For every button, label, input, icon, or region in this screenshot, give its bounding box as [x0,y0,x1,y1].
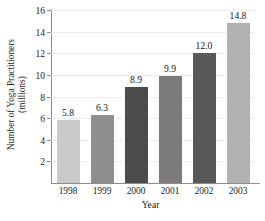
bar-value-label: 6.3 [96,102,108,113]
y-axis-tick-label: 6 [40,113,45,124]
y-axis-tick-label: 12 [35,48,45,59]
plot-area: 2468101214165.86.38.99.912.014.8 [51,10,255,183]
y-axis-tick-mark [47,32,51,33]
y-axis-tick-mark [47,53,51,54]
x-axis-tick-label: 2001 [161,186,180,196]
bar: 5.8 [57,120,80,183]
bar: 14.8 [227,23,250,183]
gridline [51,97,255,98]
gridline [51,161,255,162]
y-axis-title: Number of Yoga Practitioners (millions) [0,0,34,190]
x-axis-title-text: Year [142,199,160,210]
y-axis-tick-mark [47,75,51,76]
x-axis-tick-label: 2003 [229,186,248,196]
y-axis-tick-mark [47,161,51,162]
y-axis-tick-label: 2 [40,156,45,167]
bar-value-label: 9.9 [164,63,176,74]
bar-value-label: 12.0 [196,40,213,51]
y-axis-title-line2: (millions) [17,39,28,150]
bar: 8.9 [125,87,148,183]
x-axis-tick-label: 2002 [195,186,214,196]
bar-value-label: 8.9 [130,74,142,85]
bar: 6.3 [91,115,114,183]
gridline [51,75,255,76]
y-axis-tick-label: 4 [40,134,45,145]
gridline [51,32,255,33]
gridline [51,53,255,54]
gridline [51,118,255,119]
y-axis-title-line1: Number of Yoga Practitioners [6,39,16,150]
x-axis-line [51,183,260,184]
y-axis-tick-mark [47,118,51,119]
yoga-practitioners-bar-chart: Number of Yoga Practitioners (millions) … [0,0,265,221]
x-axis-tick-label: 1998 [59,186,78,196]
y-axis-tick-mark [47,97,51,98]
x-axis-tick-label: 1999 [93,186,112,196]
y-axis-tick-label: 14 [35,26,45,37]
gridline [51,10,255,11]
x-axis-tick-label: 2000 [127,186,146,196]
bar: 9.9 [159,76,182,183]
bar-value-label: 14.8 [230,10,247,21]
x-axis-title: Year [0,199,265,210]
y-axis-tick-mark [47,140,51,141]
bar: 12.0 [193,53,216,183]
y-axis-tick-mark [47,10,51,11]
y-axis-tick-label: 8 [40,91,45,102]
gridline [51,140,255,141]
y-axis-tick-label: 10 [35,69,45,80]
bar-value-label: 5.8 [62,107,74,118]
y-axis-tick-label: 16 [35,5,45,16]
